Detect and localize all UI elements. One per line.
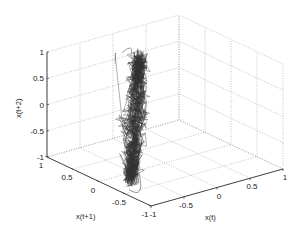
y-tick-label: 0 (91, 186, 96, 195)
y-tick-label: 1 (39, 161, 44, 170)
y-axis-label: x(t+1) (76, 212, 96, 221)
z-tick-label: 0 (40, 101, 45, 110)
floor-grid-line (99, 145, 231, 182)
x-tick-label: 0 (217, 192, 222, 201)
y-tick-label: -0.5 (112, 198, 126, 207)
y-tick (149, 205, 151, 206)
3d-phase-plot: -1-0.500.51-1-0.500.51-1-0.500.51 x(t) x… (0, 0, 305, 237)
z-axis-label: x(t+2) (14, 98, 23, 118)
x-tick-label: -1 (149, 210, 157, 219)
y-tick (97, 181, 99, 182)
y-tick (71, 168, 73, 169)
x-tick-label: -0.5 (179, 201, 193, 210)
z-tick-label: 0.5 (33, 74, 45, 83)
trajectory-path (115, 49, 150, 187)
y-tick (123, 193, 125, 194)
x-axis-label: x(t) (205, 213, 216, 222)
y-tick-label: 0.5 (61, 173, 73, 182)
x-tick-label: 0.5 (246, 182, 258, 191)
grid-lines (47, 15, 283, 206)
x-tick-label: 1 (283, 173, 288, 182)
z-tick-label: 1 (40, 48, 45, 57)
tick-labels: -1-0.500.51-1-0.500.51-1-0.500.51 (30, 48, 288, 219)
z-tick-label: -0.5 (30, 127, 44, 136)
attractor-trajectory (115, 48, 150, 193)
floor-grid-line (125, 157, 257, 194)
y-tick-label: -1 (141, 210, 149, 219)
z-tick-label: -1 (37, 153, 45, 162)
